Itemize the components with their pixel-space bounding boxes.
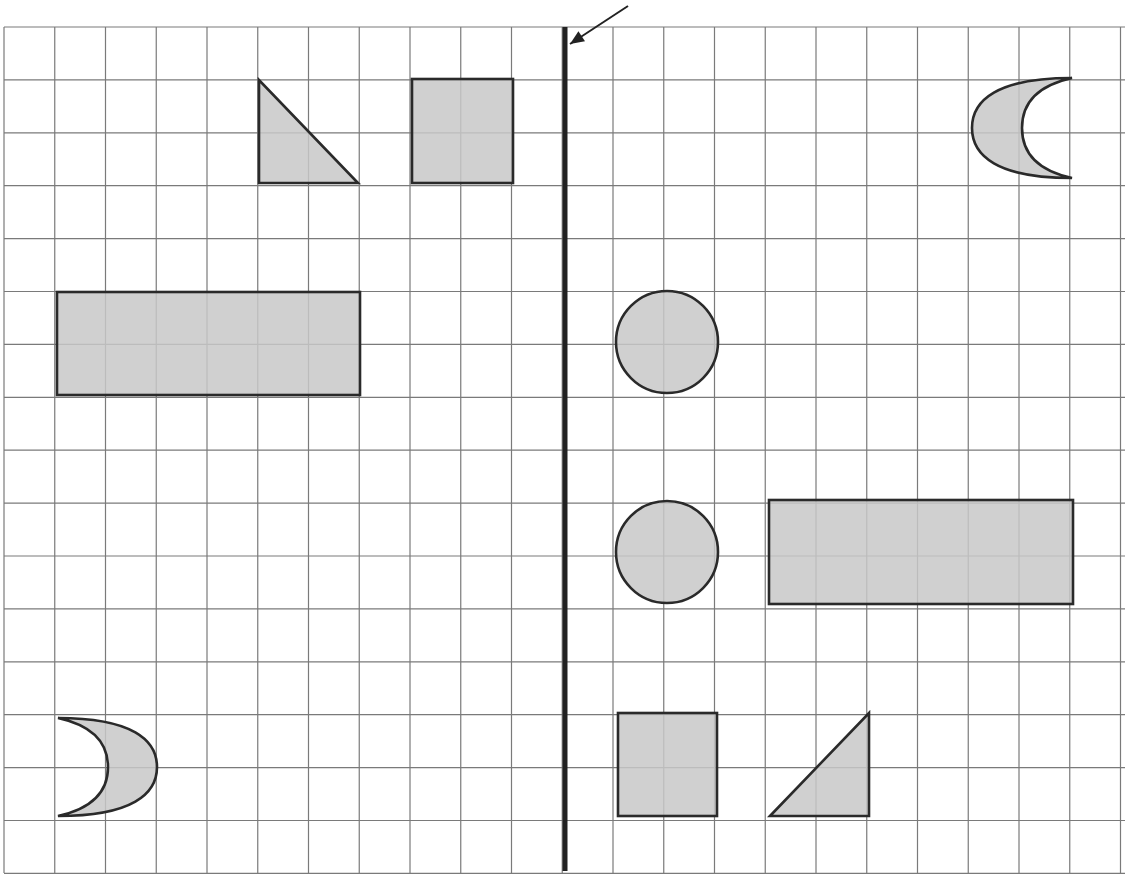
right-circle-bottom: [616, 501, 718, 603]
right-crescent: [972, 78, 1072, 178]
arrow-head-icon: [570, 31, 585, 44]
symmetry-grid-diagram: [0, 0, 1125, 875]
right-rectangle: [769, 500, 1073, 604]
left-square: [412, 79, 513, 183]
right-square: [618, 713, 717, 816]
right-triangle: [770, 713, 869, 816]
left-rectangle: [57, 292, 360, 395]
right-circle-top: [616, 291, 718, 393]
